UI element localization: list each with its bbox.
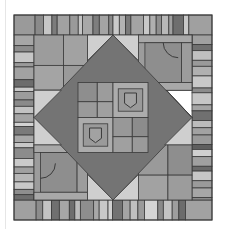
border-patch (192, 166, 212, 171)
border-patch (192, 157, 212, 167)
border-patch (179, 200, 186, 220)
patch (34, 35, 63, 65)
center-quadrant-bottom-left (78, 118, 113, 153)
border-patch (14, 91, 34, 100)
border-patch (108, 200, 112, 220)
border-patch (192, 188, 212, 198)
border-patch (173, 15, 184, 35)
border-patch (192, 111, 212, 121)
border-patch (57, 15, 70, 35)
border-patch (192, 45, 212, 51)
border-patch (14, 127, 34, 136)
border-patch (156, 15, 161, 35)
patch (168, 175, 192, 200)
border-patch (163, 200, 172, 220)
border-patch (14, 52, 34, 63)
border-patch (14, 106, 34, 113)
border-patch (78, 15, 82, 35)
border-patch (14, 80, 34, 87)
patch (182, 43, 192, 83)
patch (34, 65, 63, 90)
patch (168, 145, 192, 175)
border-patch (99, 200, 108, 220)
border-patch (144, 15, 150, 35)
border-patch (52, 200, 60, 220)
center-quadrant-bottom-right (113, 118, 148, 153)
border-patch (184, 15, 189, 35)
patch (132, 118, 148, 137)
patch (139, 175, 168, 200)
patch (34, 192, 88, 200)
border-patch (36, 200, 43, 220)
border-patch (14, 167, 34, 173)
border-patch (169, 15, 173, 35)
patch (132, 137, 148, 153)
patch (97, 83, 113, 102)
border-patch (172, 200, 179, 220)
border-patch (192, 60, 212, 66)
border-patch (69, 200, 75, 220)
border-patch (14, 46, 34, 52)
border-patch (93, 15, 99, 35)
border-patch (192, 88, 212, 93)
border-patch (192, 149, 212, 156)
border-patch (14, 182, 34, 189)
patch (139, 35, 193, 43)
border-patch (80, 200, 93, 220)
border-patch (109, 15, 113, 35)
border-patch (192, 135, 212, 145)
center-quadrants (78, 83, 148, 153)
border-patch (192, 145, 212, 150)
border-patch (113, 15, 119, 35)
border-patch (161, 15, 168, 35)
border-patch (192, 128, 212, 135)
border-patch (138, 200, 145, 220)
border-patch (14, 158, 34, 167)
border-patch (14, 195, 34, 200)
border-patch (119, 15, 125, 35)
border-patch (43, 200, 52, 220)
border-patch (59, 200, 69, 220)
border-patch (150, 15, 156, 35)
border-patch (192, 93, 212, 105)
border-patch (75, 200, 81, 220)
border-patch (94, 200, 100, 220)
patch (40, 152, 77, 192)
border-patch (14, 15, 35, 35)
patch (78, 83, 97, 102)
top-border-strip (14, 15, 212, 35)
border-patch (192, 51, 212, 61)
border-patch (192, 105, 212, 111)
border-patch (99, 15, 108, 35)
right-border-strip (192, 35, 212, 200)
left-border-strip (14, 35, 34, 200)
border-patch (14, 87, 34, 91)
border-patch (14, 114, 34, 123)
border-patch (14, 148, 34, 159)
border-patch (192, 198, 212, 200)
border-patch (14, 135, 34, 142)
border-patch (131, 15, 144, 35)
border-patch (14, 100, 34, 106)
border-patch (192, 66, 212, 76)
border-patch (14, 63, 34, 67)
border-patch (185, 200, 212, 220)
border-patch (192, 121, 212, 128)
border-patch (112, 200, 122, 220)
patch (78, 102, 97, 118)
border-patch (126, 15, 131, 35)
patch (113, 118, 132, 137)
border-patch (14, 35, 34, 46)
center-quadrant-top-left (78, 83, 113, 118)
border-patch (35, 15, 43, 35)
patch (63, 35, 87, 65)
border-patch (192, 35, 212, 45)
border-patch (70, 15, 78, 35)
patch (97, 102, 113, 118)
border-patch (158, 200, 164, 220)
border-patch (122, 200, 130, 220)
border-patch (52, 15, 57, 35)
border-patch (14, 173, 34, 182)
border-patch (130, 200, 138, 220)
border-patch (14, 122, 34, 126)
